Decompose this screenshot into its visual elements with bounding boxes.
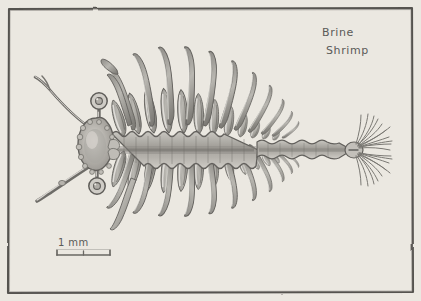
illustration-canvas: Brine Shrimp 1 mm bbox=[0, 0, 421, 301]
scale-bar-label: 1 mm bbox=[58, 237, 89, 248]
species-label-line-1: Brine bbox=[322, 26, 354, 39]
species-label-line-2: Shrimp bbox=[326, 44, 369, 57]
